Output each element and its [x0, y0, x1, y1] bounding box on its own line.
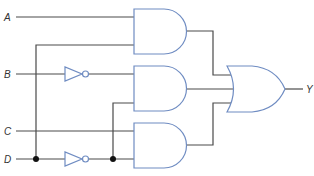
logic-circuit-diagram: A B C D	[0, 0, 314, 176]
input-label-a: A	[3, 12, 11, 23]
or-gate	[227, 66, 285, 112]
not-gate-d	[65, 152, 89, 166]
and-gate-3	[134, 123, 187, 168]
input-label-c: C	[4, 126, 12, 137]
not-gate-b	[65, 67, 89, 81]
output-label-y: Y	[306, 84, 314, 95]
and-gate-2	[134, 66, 187, 111]
input-label-b: B	[4, 69, 11, 80]
junction-d	[33, 156, 39, 162]
wire-and3-to-or	[187, 103, 233, 145]
input-label-d: D	[4, 154, 11, 165]
junction-not-d	[110, 156, 116, 162]
wire-and1-to-or	[187, 31, 233, 75]
wire-d-to-and1	[36, 45, 134, 159]
and-gate-1	[134, 9, 187, 54]
